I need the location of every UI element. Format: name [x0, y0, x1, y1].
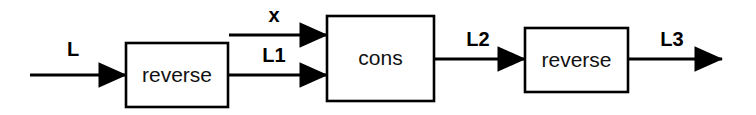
process-node-cons[interactable]: cons	[327, 16, 434, 101]
process-node-reverse-1[interactable]: reverse	[126, 43, 228, 107]
dataflow-diagram: reverseconsreverse LxL1L2L3	[0, 0, 756, 115]
edge-label-edge-L2: L2	[466, 28, 489, 50]
process-label-reverse-2: reverse	[541, 48, 611, 71]
edge-label-edge-L1: L1	[262, 44, 285, 66]
process-node-reverse-2[interactable]: reverse	[525, 28, 628, 92]
nodes-layer: reverseconsreverse	[126, 16, 628, 107]
edge-label-edge-L: L	[67, 38, 79, 60]
edge-label-edge-L3: L3	[660, 28, 683, 50]
process-label-cons: cons	[358, 46, 402, 69]
process-label-reverse-1: reverse	[142, 63, 212, 86]
edge-label-edge-x: x	[268, 4, 279, 26]
diagram-canvas: reverseconsreverse LxL1L2L3	[0, 0, 756, 115]
